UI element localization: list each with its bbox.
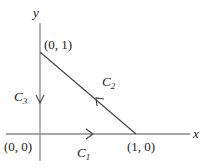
curve-label-c3: C3 [14,89,28,106]
point-label-origin: (0, 0) [4,139,32,154]
curve-c2 [40,52,136,134]
y-axis-label: y [31,5,39,20]
point-label-0-1: (0, 1) [44,37,72,52]
curve-label-c2: C2 [102,74,116,91]
point-label-1-0: (1, 0) [127,139,155,154]
c2-arrow-icon [96,98,104,106]
triangle-path-diagram: y x (0, 1) (0, 0) (1, 0) C1 C2 C3 [0,0,205,168]
curve-label-c1: C1 [77,145,90,162]
x-axis-label: x [192,126,199,141]
